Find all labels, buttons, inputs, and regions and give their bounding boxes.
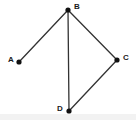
edge-a-b — [19, 10, 68, 62]
graph-svg — [0, 0, 136, 120]
bottom-edge-band — [0, 114, 136, 120]
vertex-label-b: B — [74, 3, 80, 11]
edge-group — [19, 10, 117, 111]
vertex-b — [65, 7, 70, 12]
vertex-c — [114, 57, 119, 62]
vertex-label-a: A — [8, 56, 14, 64]
edge-b-d — [68, 10, 69, 111]
diagram-canvas: ABCD — [0, 0, 136, 120]
vertex-label-d: D — [57, 105, 63, 113]
vertex-a — [16, 59, 21, 64]
edge-c-d — [69, 60, 117, 111]
vertex-label-c: C — [123, 54, 129, 62]
vertex-d — [66, 108, 71, 113]
edge-b-c — [68, 10, 117, 60]
